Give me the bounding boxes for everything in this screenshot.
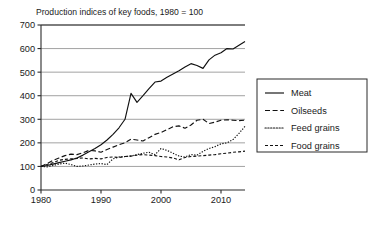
y-tick-label: 700 [20, 20, 35, 30]
chart-title: Production indices of key foods, 1980 = … [36, 7, 203, 17]
y-tick-label: 300 [20, 115, 35, 125]
x-tick-label: 1980 [31, 195, 51, 205]
chart-container: Production indices of key foods, 1980 = … [0, 0, 374, 228]
data-series-group [41, 42, 245, 167]
x-tick-label: 2010 [211, 195, 231, 205]
y-axis-tick-labels: 0100200300400500600700 [20, 20, 35, 195]
y-tick-label: 200 [20, 138, 35, 148]
x-tick-label: 2000 [151, 195, 171, 205]
y-tick-label: 0 [30, 185, 35, 195]
series-line-feed-grains [41, 126, 245, 167]
y-tick-label: 600 [20, 44, 35, 54]
y-tick-label: 500 [20, 68, 35, 78]
legend-label-feed-grains: Feed grains [291, 123, 340, 133]
legend-label-meat: Meat [291, 88, 312, 98]
x-axis-tick-labels: 1980199020002010 [31, 195, 231, 205]
legend-label-food-grains: Food grains [291, 141, 340, 151]
line-chart-figure: Production indices of key foods, 1980 = … [0, 0, 374, 228]
y-tick-label: 100 [20, 162, 35, 172]
y-tick-label: 400 [20, 91, 35, 101]
series-line-meat [41, 42, 245, 167]
x-tick-label: 1990 [91, 195, 111, 205]
legend-label-oilseeds: Oilseeds [291, 106, 327, 116]
chart-legend: MeatOilseedsFeed grainsFood grains [257, 79, 367, 152]
